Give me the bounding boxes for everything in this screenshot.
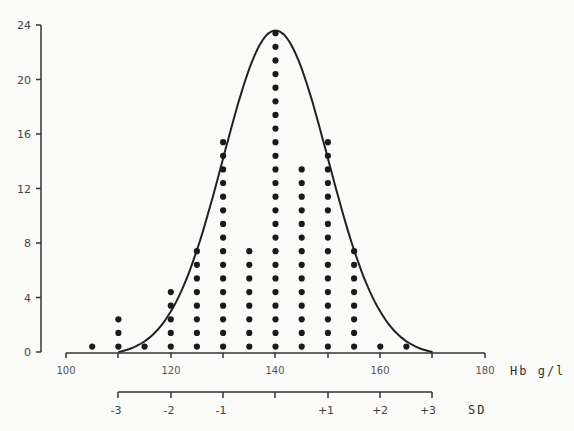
data-dot: [194, 330, 200, 336]
data-dot: [272, 153, 278, 159]
data-dot: [325, 139, 331, 145]
data-dot: [246, 248, 252, 254]
data-dot: [351, 303, 357, 309]
data-dot: [220, 166, 226, 172]
data-dot: [325, 180, 331, 186]
data-dot: [325, 194, 331, 200]
data-dot: [351, 289, 357, 295]
data-dots: [89, 30, 409, 350]
data-dot: [272, 235, 278, 241]
data-dot: [299, 316, 305, 322]
data-dot: [299, 180, 305, 186]
sd-axis-title: SD: [468, 403, 486, 417]
data-dot: [246, 289, 252, 295]
data-dot: [194, 316, 200, 322]
data-dot: [220, 316, 226, 322]
sd-tick-plus2: +2: [372, 404, 388, 417]
data-dot: [168, 344, 174, 350]
data-dot: [272, 248, 278, 254]
x-tick-100: 100: [56, 365, 75, 376]
data-dot: [272, 71, 278, 77]
data-dot: [272, 275, 278, 281]
data-dot: [299, 221, 305, 227]
data-dot: [246, 330, 252, 336]
sd-tick-minus3: -3: [111, 404, 122, 417]
data-dot: [168, 289, 174, 295]
sd-tick-minus2: -2: [164, 404, 175, 417]
data-dot: [272, 166, 278, 172]
data-dot: [351, 262, 357, 268]
data-dot: [325, 344, 331, 350]
data-dot: [325, 235, 331, 241]
data-dot: [115, 316, 121, 322]
data-dot: [299, 166, 305, 172]
data-dot: [272, 126, 278, 132]
data-dot: [299, 330, 305, 336]
data-dot: [220, 248, 226, 254]
data-dot: [351, 330, 357, 336]
data-dot: [325, 166, 331, 172]
data-dot: [220, 221, 226, 227]
data-dot: [299, 289, 305, 295]
data-dot: [325, 330, 331, 336]
data-dot: [220, 344, 226, 350]
data-dot: [299, 303, 305, 309]
data-dot: [272, 303, 278, 309]
data-dot: [272, 30, 278, 36]
data-dot: [299, 344, 305, 350]
data-dot: [220, 303, 226, 309]
x-tick-140: 140: [265, 365, 284, 376]
x-tick-180: 180: [475, 365, 494, 376]
data-dot: [168, 303, 174, 309]
data-dot: [194, 248, 200, 254]
data-dot: [272, 330, 278, 336]
data-dot: [194, 344, 200, 350]
data-dot: [325, 262, 331, 268]
data-dot: [272, 57, 278, 63]
data-dot: [272, 112, 278, 118]
data-dot: [272, 262, 278, 268]
data-dot: [194, 289, 200, 295]
x-axis: [66, 353, 485, 358]
data-dot: [220, 330, 226, 336]
y-tick-24: 24: [17, 19, 31, 32]
data-dot: [272, 44, 278, 50]
data-dot: [272, 344, 278, 350]
data-dot: [325, 303, 331, 309]
data-dot: [272, 139, 278, 145]
data-dot: [272, 98, 278, 104]
data-dot: [325, 275, 331, 281]
data-dot: [246, 344, 252, 350]
data-dot: [220, 289, 226, 295]
data-dot: [377, 344, 383, 350]
data-dot: [246, 316, 252, 322]
y-tick-4: 4: [24, 292, 31, 305]
sd-tick-plus1: +1: [318, 404, 334, 417]
data-dot: [115, 344, 121, 350]
x-tick-120: 120: [161, 365, 180, 376]
data-dot: [272, 85, 278, 91]
y-axis: [36, 25, 41, 352]
data-dot: [299, 262, 305, 268]
data-dot: [220, 194, 226, 200]
x-tick-160: 160: [370, 365, 389, 376]
dot-histogram-chart: 0 4 8 12 16 20 24 100 120 140 160 180 Hb…: [0, 0, 574, 431]
data-dot: [115, 330, 121, 336]
data-dot: [325, 207, 331, 213]
data-dot: [272, 316, 278, 322]
data-dot: [299, 194, 305, 200]
x-tick-labels: 100 120 140 160 180 Hb g/l: [56, 364, 565, 378]
data-dot: [351, 316, 357, 322]
data-dot: [246, 262, 252, 268]
sd-axis: [118, 392, 432, 398]
data-dot: [194, 303, 200, 309]
data-dot: [325, 316, 331, 322]
data-dot: [325, 153, 331, 159]
data-dot: [351, 248, 357, 254]
data-dot: [299, 275, 305, 281]
data-dot: [272, 221, 278, 227]
data-dot: [168, 316, 174, 322]
data-dot: [403, 344, 409, 350]
data-dot: [194, 262, 200, 268]
data-dot: [194, 275, 200, 281]
